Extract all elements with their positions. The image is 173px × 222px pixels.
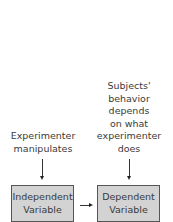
box-line: Dependent	[98, 191, 159, 204]
label-line: Experimenter	[2, 130, 84, 143]
experimenter-label: Experimenter manipulates	[2, 130, 84, 155]
subjects-behavior-label: Subjects' behavior depends on what exper…	[88, 80, 170, 155]
label-line: behavior	[88, 93, 170, 106]
label-line: experimenter	[88, 130, 170, 143]
box-line: Variable	[12, 204, 73, 217]
box-line: Variable	[98, 204, 159, 217]
box-line: Independent	[12, 191, 73, 204]
label-line: manipulates	[2, 143, 84, 156]
dependent-variable-box: Dependent Variable	[97, 185, 160, 222]
label-line: does	[88, 143, 170, 156]
label-line: depends	[88, 105, 170, 118]
label-line: Subjects'	[88, 80, 170, 93]
independent-variable-box: Independent Variable	[11, 185, 74, 222]
label-line: on what	[88, 118, 170, 131]
